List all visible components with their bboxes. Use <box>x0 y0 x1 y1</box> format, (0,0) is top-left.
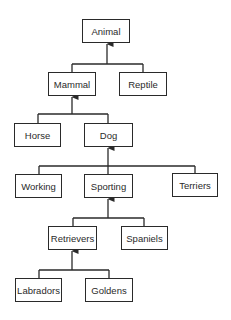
node-spaniels: Spaniels <box>121 226 168 250</box>
node-label: Sporting <box>91 181 126 192</box>
node-label: Goldens <box>91 285 126 296</box>
node-label: Labradors <box>17 285 60 296</box>
node-animal: Animal <box>82 19 130 43</box>
node-label: Spaniels <box>126 233 162 244</box>
node-reptile: Reptile <box>119 72 167 96</box>
node-label: Mammal <box>54 79 90 90</box>
node-label: Horse <box>25 130 50 141</box>
connector-lines <box>0 0 231 320</box>
node-label: Retrievers <box>51 233 94 244</box>
node-label: Dog <box>100 130 117 141</box>
node-label: Animal <box>91 26 120 37</box>
node-terriers: Terriers <box>172 173 218 197</box>
node-labradors: Labradors <box>15 278 62 302</box>
node-mammal: Mammal <box>48 72 96 96</box>
node-retrievers: Retrievers <box>48 226 97 250</box>
node-sporting: Sporting <box>84 174 133 198</box>
node-label: Working <box>21 181 56 192</box>
node-goldens: Goldens <box>85 278 133 302</box>
node-label: Reptile <box>128 79 158 90</box>
node-working: Working <box>15 174 62 198</box>
node-horse: Horse <box>14 123 61 147</box>
node-label: Terriers <box>179 180 211 191</box>
node-dog: Dog <box>84 123 133 147</box>
